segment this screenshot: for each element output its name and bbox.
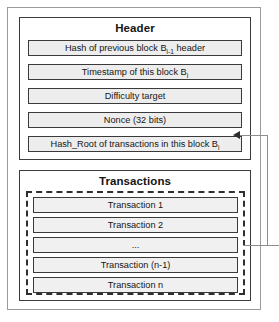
transaction-row-ellipsis: ...: [33, 237, 238, 253]
transactions-section-title: Transactions: [20, 174, 250, 188]
header-field-hash-root: Hash_Root of transactions in this block …: [28, 136, 242, 152]
connector-arrowhead-icon: [233, 131, 240, 139]
transactions-dashed-container: Transaction 1 Transaction 2 ... Transact…: [26, 191, 245, 295]
header-field-previous-hash: Hash of previous block Bi-1 header: [28, 40, 242, 56]
header-field-difficulty-target: Difficulty target: [28, 88, 242, 104]
connector-line-from-transactions: [243, 245, 279, 246]
transaction-row-n-minus-1: Transaction (n-1): [33, 257, 238, 273]
header-field-previous-hash-text-before: Hash of previous block B: [65, 43, 167, 53]
header-field-nonce-text-before: Nonce (32 bits): [104, 115, 166, 125]
header-field-hash-root-subscript: i: [218, 144, 219, 151]
header-field-previous-hash-text-after: header: [174, 43, 205, 53]
header-section-title: Header: [20, 21, 250, 35]
header-field-timestamp-subscript: i: [187, 72, 188, 79]
connector-line-vertical: [267, 135, 268, 246]
header-field-previous-hash-subscript: i-1: [167, 48, 174, 55]
header-field-nonce: Nonce (32 bits): [28, 112, 242, 128]
header-field-timestamp-text-before: Timestamp of this block B: [82, 67, 187, 77]
transaction-row-2: Transaction 2: [33, 217, 238, 233]
header-field-difficulty-target-text-before: Difficulty target: [105, 91, 166, 101]
transaction-row-n: Transaction n: [33, 277, 238, 293]
block-transactions-section: Transactions Transaction 1 Transaction 2…: [19, 170, 251, 301]
block-outer-frame: Header Hash of previous block Bi-1 heade…: [7, 7, 261, 310]
header-field-timestamp: Timestamp of this block Bi: [28, 64, 242, 80]
header-field-hash-root-text-before: Hash_Root of transactions in this block …: [51, 139, 219, 149]
transaction-row-1: Transaction 1: [33, 197, 238, 213]
block-header-section: Header Hash of previous block Bi-1 heade…: [19, 17, 251, 160]
connector-line-to-hash-root: [240, 135, 268, 136]
